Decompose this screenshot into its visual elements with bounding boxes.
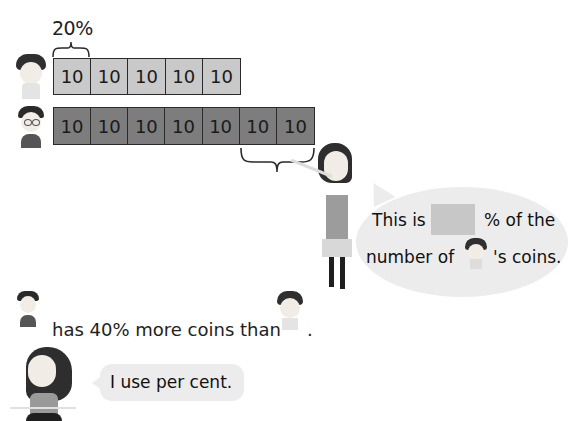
comparison-statement: has 40% more coins than [52, 319, 281, 340]
glasses-boy-avatar [16, 106, 46, 150]
percent-label: 20% [52, 17, 93, 39]
small-bubble-text: I use per cent. [110, 372, 232, 392]
pointing-girl-figure [284, 143, 359, 293]
bubble-line1-after: % of the [484, 210, 555, 230]
bar-cell: 10 [166, 59, 203, 94]
bar-cell: 10 [277, 108, 314, 144]
curly-boy-inline-icon [275, 291, 305, 331]
statement-period: . [307, 319, 313, 340]
bar-cell: 10 [91, 108, 128, 144]
bar-cell: 10 [54, 108, 91, 144]
bar-cell: 10 [128, 108, 165, 144]
top-bar-model: 10 10 10 10 10 [53, 58, 241, 95]
curly-boy-inline-icon [464, 238, 488, 270]
bubble-line2-after: 's coins. [493, 247, 561, 267]
bubble-line2-before: number of [366, 247, 454, 267]
bar-cell: 10 [165, 108, 202, 144]
bar-cell: 10 [203, 59, 240, 94]
sitting-girl-figure [10, 345, 76, 421]
glasses-boy-inline-icon [16, 291, 40, 329]
bar-cell: 10 [240, 108, 277, 144]
bar-cell: 10 [128, 59, 165, 94]
bubble-line1-before: This is [372, 210, 426, 230]
bottom-bar-model: 10 10 10 10 10 10 10 [53, 107, 315, 145]
top-brace [52, 40, 92, 58]
bar-cell: 10 [203, 108, 240, 144]
bar-cell: 10 [54, 59, 91, 94]
curly-boy-avatar [14, 54, 48, 100]
answer-blank-box[interactable] [431, 204, 475, 235]
bar-cell: 10 [91, 59, 128, 94]
